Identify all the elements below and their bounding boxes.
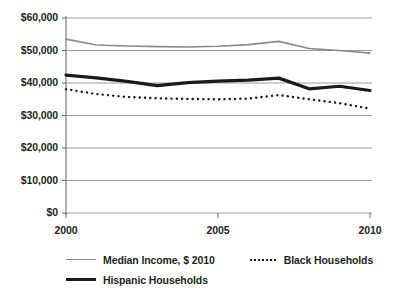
legend-label-median-income: Median Income, $ 2010 [103,254,215,266]
legend-row-secondary: Hispanic Households [66,270,394,290]
line-swatch-median-income-icon [66,255,96,265]
legend-entry-hispanic-households: Hispanic Households [66,274,208,286]
x-axis-tick-label: 2010 [340,224,394,236]
legend-label-black-households: Black Households [284,254,373,266]
y-axis-tick-label: $60,000 [2,11,58,23]
chart-legend: Median Income, $ 2010 Black Households H… [66,250,394,290]
series-line [66,39,370,53]
x-axis-tick-label: 2000 [36,224,96,236]
y-axis-tick-label: $10,000 [2,174,58,186]
legend-entry-black-households: Black Households [249,254,373,266]
line-swatch-hispanic-households-icon [66,275,96,285]
y-axis-tick-label: $30,000 [2,109,58,121]
x-axis-tick-label: 2005 [188,224,248,236]
legend-row-primary: Median Income, $ 2010 Black Households [66,250,394,270]
y-axis-tick-label: $0 [2,206,58,218]
y-axis-tick-label: $40,000 [2,76,58,88]
y-axis-tick-label: $20,000 [2,141,58,153]
income-line-chart: $60,000$50,000$40,000$30,000$20,000$10,0… [0,0,394,299]
x-tick-marks [66,213,370,218]
legend-label-hispanic-households: Hispanic Households [103,274,208,286]
legend-entry-median-income: Median Income, $ 2010 [66,254,215,266]
dotted-swatch-black-households-icon [249,255,277,265]
series-line [66,89,370,109]
gridlines [62,18,372,213]
y-axis-tick-label: $50,000 [2,44,58,56]
series-lines [66,39,370,109]
